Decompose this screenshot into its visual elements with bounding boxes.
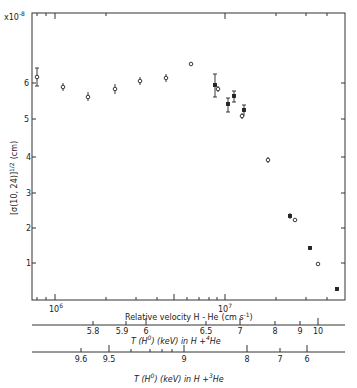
axis-3he-tick-labels: 9.6 9.5 9 8 7 6: [75, 355, 310, 364]
svg-text:9: 9: [181, 355, 186, 364]
x-axis-ticks: [37, 13, 327, 300]
axis-3he-label: T (H0) (keV) in H +3He: [134, 372, 224, 384]
x-axis-label: Relative velocity H - He(cm s-1): [125, 311, 253, 322]
svg-text:7: 7: [277, 355, 282, 364]
chart-canvas: x10-8 6 5 4 3 2 1 [σ(10, 24)]1/2(cm): [0, 0, 357, 388]
y-multiplier: x10-8: [4, 10, 25, 22]
svg-text:3: 3: [26, 189, 31, 198]
svg-text:9.5: 9.5: [103, 355, 116, 364]
svg-text:6: 6: [304, 355, 309, 364]
svg-text:2: 2: [26, 224, 31, 233]
svg-text:1: 1: [26, 259, 31, 268]
y-axis-label: [σ(10, 24)]1/2(cm): [8, 141, 19, 215]
svg-text:8: 8: [244, 355, 249, 364]
axis-4he-tick-labels: 5.8 5.9 6 6.5 7 8 9 10: [87, 327, 323, 336]
y-axis-tick-labels: 6 5 4 3 2 1: [24, 79, 31, 268]
axis-3he-ticks: [81, 345, 307, 352]
svg-text:9: 9: [297, 327, 302, 336]
svg-text:4: 4: [26, 153, 31, 162]
x-tick-10-6: 106: [49, 302, 63, 314]
svg-text:7: 7: [237, 327, 242, 336]
svg-text:8: 8: [272, 327, 277, 336]
svg-text:5: 5: [24, 115, 29, 124]
svg-text:5.9: 5.9: [116, 327, 129, 336]
svg-text:6: 6: [24, 79, 29, 88]
data-series-open-circles: [35, 62, 320, 266]
svg-text:10: 10: [313, 327, 323, 336]
plot-frame: [32, 13, 345, 300]
svg-text:9.6: 9.6: [75, 355, 88, 364]
y-axis-ticks: [32, 83, 345, 263]
svg-text:5.8: 5.8: [87, 327, 100, 336]
data-series-filled-squares: [213, 74, 339, 291]
